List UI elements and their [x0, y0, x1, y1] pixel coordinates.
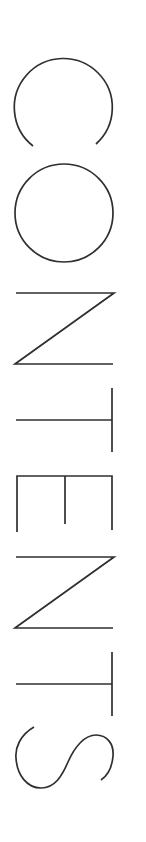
vertical-contents-title: C O N T E N: [0, 0, 146, 842]
letter-t: T: [16, 388, 112, 452]
letter-n-2: N: [15, 557, 114, 628]
letter-s: S: [16, 727, 113, 788]
letter-c: C: [14, 58, 112, 146]
letter-n: N: [15, 293, 114, 364]
contents-page: CONTENTS C O N T E N: [0, 0, 146, 842]
letter-e: E: [17, 476, 112, 532]
letter-t-2: T: [16, 652, 112, 716]
letter-o: O: [15, 164, 113, 262]
